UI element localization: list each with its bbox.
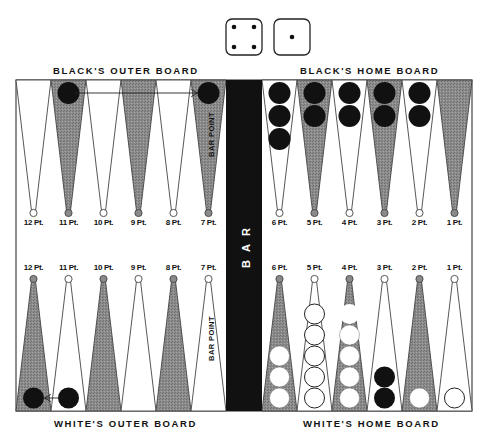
- point-label: 8 Pt.: [166, 263, 181, 272]
- point-marker: [170, 209, 177, 216]
- bar-point-label-top: BAR POINT: [207, 105, 216, 165]
- white-checker: [340, 346, 360, 366]
- point-marker: [65, 275, 72, 282]
- black-checker: [374, 82, 396, 104]
- black-checker: [269, 82, 291, 104]
- white-checker: [270, 346, 290, 366]
- white-checker: [445, 388, 465, 408]
- point-label: 9 Pt.: [131, 263, 146, 272]
- point-label: 5 Pt.: [307, 263, 322, 272]
- white-checker: [340, 325, 360, 345]
- black-checker: [339, 82, 361, 104]
- point-label: 12 Pt.: [24, 263, 44, 272]
- point-marker: [346, 275, 353, 282]
- point-label: 1 Pt.: [447, 263, 462, 272]
- black-checker: [339, 105, 361, 127]
- black-checker: [409, 82, 431, 104]
- point-marker: [135, 275, 142, 282]
- point-label: 4 Pt.: [342, 263, 357, 272]
- ghost-white-checker: [340, 304, 360, 324]
- point-label: 10 Pt.: [94, 218, 114, 227]
- point-marker: [30, 275, 37, 282]
- point-marker: [416, 209, 423, 216]
- point-marker: [100, 209, 107, 216]
- black-checker: [374, 388, 395, 409]
- white-checker: [270, 388, 290, 408]
- white-checker: [305, 346, 325, 366]
- point-marker: [311, 275, 318, 282]
- point-marker: [346, 209, 353, 216]
- point-label: 12 Pt.: [24, 218, 44, 227]
- point-label: 11 Pt.: [59, 263, 78, 272]
- point-label: 8 Pt.: [166, 218, 181, 227]
- black-checker: [409, 105, 431, 127]
- black-checker: [374, 105, 396, 127]
- point-label: 3 Pt.: [377, 263, 392, 272]
- black-checker: [198, 82, 220, 104]
- white-checker: [305, 325, 325, 345]
- black-checker: [374, 367, 395, 388]
- point-marker: [451, 275, 458, 282]
- white-checker: [340, 388, 360, 408]
- point-label: 10 Pt.: [94, 263, 114, 272]
- white-checker: [305, 388, 325, 408]
- point-marker: [311, 209, 318, 216]
- point-marker: [100, 275, 107, 282]
- point-label: 2 Pt.: [412, 263, 427, 272]
- white-checker: [305, 367, 325, 387]
- point-label: 7 Pt.: [201, 263, 216, 272]
- point-marker: [451, 209, 458, 216]
- black-checker: [304, 82, 326, 104]
- point-label: 3 Pt.: [377, 218, 392, 227]
- white-checker: [410, 388, 430, 408]
- point-marker: [416, 275, 423, 282]
- point-label: 4 Pt.: [342, 218, 357, 227]
- point-label: 6 Pt.: [272, 263, 287, 272]
- point-label: 11 Pt.: [59, 218, 78, 227]
- point-marker: [276, 275, 283, 282]
- point-marker: [381, 275, 388, 282]
- point-label: 1 Pt.: [447, 218, 462, 227]
- point-label: 7 Pt.: [201, 218, 216, 227]
- point-label: 9 Pt.: [131, 218, 146, 227]
- white-checker: [305, 304, 325, 324]
- point-marker: [381, 209, 388, 216]
- bar-label: BAR: [240, 204, 252, 284]
- point-marker: [205, 275, 212, 282]
- white-checker: [340, 367, 360, 387]
- point-marker: [170, 275, 177, 282]
- point-label: 6 Pt.: [272, 218, 287, 227]
- black-checker: [304, 105, 326, 127]
- point-marker: [135, 209, 142, 216]
- black-checker: [23, 388, 44, 409]
- point-label: 2 Pt.: [412, 218, 427, 227]
- bar-point-label-bottom: BAR POINT: [207, 309, 216, 369]
- black-checker: [269, 105, 291, 127]
- white-checker: [270, 367, 290, 387]
- point-marker: [65, 209, 72, 216]
- point-marker: [276, 209, 283, 216]
- point-marker: [205, 209, 212, 216]
- point-marker: [30, 209, 37, 216]
- black-checker: [269, 128, 291, 150]
- point-label: 5 Pt.: [307, 218, 322, 227]
